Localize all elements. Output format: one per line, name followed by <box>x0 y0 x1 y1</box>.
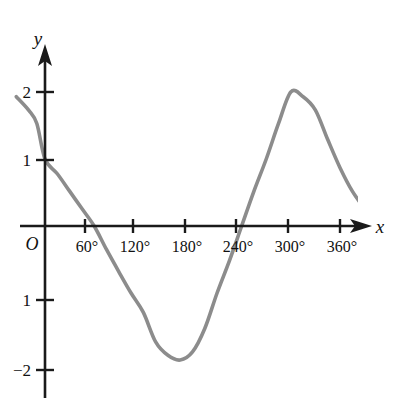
y-axis-label: y <box>32 28 43 49</box>
x-tick-label: 300° <box>275 238 305 255</box>
x-tick-label: 60° <box>76 238 98 255</box>
y-tick-label: −2 <box>13 361 31 380</box>
y-tick-label: 2 <box>23 83 32 102</box>
x-tick-label: 240° <box>223 238 253 255</box>
trig-graph-figure: y x O 60°120°180°240°300°360° 211−2 <box>0 0 402 407</box>
y-tick-label: 1 <box>23 291 32 310</box>
y-tick-label: 1 <box>23 151 32 170</box>
x-tick-label-group: 60°120°180°240°300°360° <box>76 238 357 255</box>
plot-canvas: y x O 60°120°180°240°300°360° 211−2 <box>0 0 402 407</box>
x-tick-label: 120° <box>120 238 150 255</box>
origin-label: O <box>26 234 39 254</box>
x-axis-label: x <box>375 216 385 237</box>
x-tick-label: 360° <box>327 238 357 255</box>
y-tick-label-group: 211−2 <box>13 83 31 380</box>
x-tick-label: 180° <box>172 238 202 255</box>
